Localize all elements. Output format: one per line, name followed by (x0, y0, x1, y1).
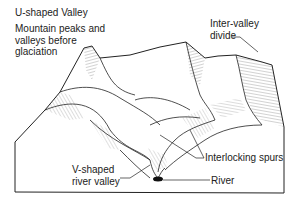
subtitle-line-2: valleys before (15, 35, 105, 47)
inter-valley-line-2: divide (210, 30, 259, 42)
diagram-canvas: U-shaped Valley Mountain peaks and valle… (0, 0, 299, 208)
v-shaped-line-2: river valley (72, 176, 120, 188)
v-shaped-line-1: V-shaped (72, 164, 120, 176)
inter-valley-line-1: Inter-valley (210, 18, 259, 30)
label-river: River (211, 175, 234, 187)
label-interlocking-spurs: Interlocking spurs (205, 152, 283, 164)
subtitle-line-1: Mountain peaks and (15, 23, 105, 35)
subtitle-line-3: glaciation (15, 46, 105, 58)
diagram-title: U-shaped Valley (15, 7, 88, 19)
label-inter-valley-divide: Inter-valley divide (210, 18, 259, 41)
shaded-faces (45, 42, 284, 170)
label-v-shaped-river-valley: V-shaped river valley (72, 164, 120, 187)
diagram-subtitle: Mountain peaks and valleys before glacia… (15, 23, 105, 58)
